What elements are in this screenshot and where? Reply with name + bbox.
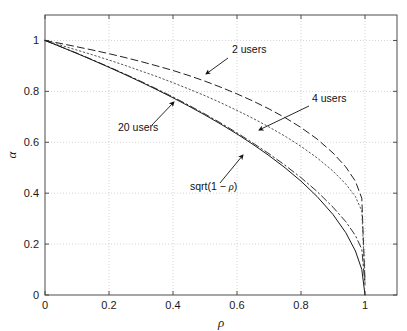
y-tick-label: 0 <box>33 289 39 301</box>
x-axis-label: ρ <box>217 315 224 330</box>
annotation-label-sqrt-label: sqrt(1 − ρ) <box>190 180 237 192</box>
figure-canvas: 00.20.40.60.81 00.20.40.60.81 ρ α 2 user… <box>0 0 407 331</box>
y-tick-label: 1 <box>33 34 39 46</box>
y-tick-label: 0.2 <box>24 238 39 250</box>
y-tick-label: 0.8 <box>24 85 39 97</box>
annotation-label-2-users: 2 users <box>232 43 266 55</box>
y-tick-label: 0.4 <box>24 187 39 199</box>
figure-background <box>0 0 407 331</box>
x-tick-label: 0.8 <box>293 299 308 311</box>
x-tick-label: 0 <box>42 299 48 311</box>
chart-plot: 00.20.40.60.81 00.20.40.60.81 ρ α 2 user… <box>0 0 407 331</box>
x-tick-label: 1 <box>362 299 368 311</box>
x-tick-label: 0.2 <box>101 299 116 311</box>
x-tick-label: 0.4 <box>165 299 180 311</box>
annotation-label-20-users: 20 users <box>118 121 158 133</box>
y-axis-label: α <box>4 150 19 158</box>
annotation-label-4-users: 4 users <box>312 92 346 104</box>
y-tick-label: 0.6 <box>24 136 39 148</box>
x-tick-label: 0.6 <box>229 299 244 311</box>
